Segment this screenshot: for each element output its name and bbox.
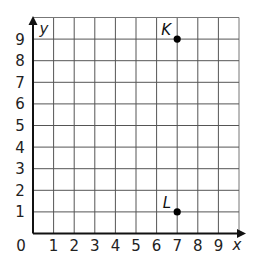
- x-tick-labels: 123456789: [49, 237, 223, 255]
- x-tick-label: 7: [172, 237, 182, 255]
- y-tick-label: 6: [15, 95, 25, 113]
- x-tick-label: 8: [193, 237, 203, 255]
- x-tick-label: 2: [69, 237, 79, 255]
- x-tick-label: 3: [90, 237, 100, 255]
- y-axis-label: y: [39, 20, 50, 38]
- y-tick-label: 4: [15, 139, 25, 157]
- point-marker: [174, 36, 181, 43]
- coordinate-plane: 123456789 123456789 0 x y KL: [0, 0, 256, 263]
- x-tick-label: 6: [152, 237, 162, 255]
- origin-label: 0: [16, 237, 26, 255]
- point-label: L: [163, 194, 171, 212]
- x-axis-label: x: [232, 236, 242, 254]
- y-tick-label: 2: [15, 182, 25, 200]
- x-tick-label: 1: [49, 237, 59, 255]
- x-tick-label: 4: [111, 237, 121, 255]
- axes: [29, 16, 247, 238]
- y-tick-label: 1: [15, 203, 25, 221]
- y-tick-label: 8: [15, 52, 25, 70]
- point-label: K: [161, 21, 172, 39]
- y-tick-label: 9: [15, 31, 25, 49]
- plotted-points: KL: [161, 21, 180, 215]
- y-tick-labels: 123456789: [15, 31, 25, 222]
- x-tick-label: 9: [214, 237, 224, 255]
- grid-lines: [33, 18, 239, 234]
- x-tick-label: 5: [131, 237, 141, 255]
- y-tick-label: 3: [15, 160, 25, 178]
- y-tick-label: 5: [15, 117, 25, 135]
- point-marker: [174, 208, 181, 215]
- y-tick-label: 7: [15, 74, 25, 92]
